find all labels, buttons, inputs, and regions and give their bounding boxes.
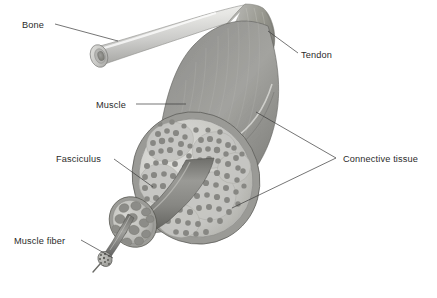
label-tendon: Tendon [301,50,332,60]
label-connective-tissue: Connective tissue [343,154,418,164]
muscle-fiber-tip [93,264,100,272]
anatomy-illustration: Bone Tendon Muscle Fasciculus Muscle fib… [0,0,437,298]
label-muscle-fiber: Muscle fiber [14,236,65,246]
muscle-structure-diagram: Bone Tendon Muscle Fasciculus Muscle fib… [0,0,437,298]
label-bone: Bone [22,20,44,30]
leader-line-bone [55,24,118,41]
label-muscle: Muscle [96,100,126,110]
label-fasciculus: Fasciculus [56,154,101,164]
